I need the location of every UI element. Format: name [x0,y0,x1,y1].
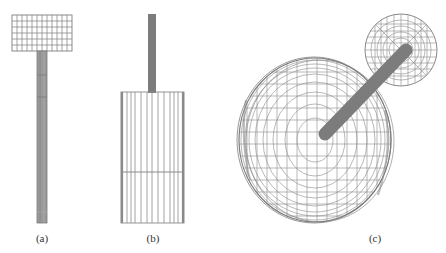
mesh-oblique-view [210,0,446,253]
panel-a: (a) [0,0,100,253]
rod [37,51,47,223]
panel-c: (c) [210,0,446,253]
disc-mesh [12,15,72,51]
panel-b-label: (b) [133,232,173,244]
rod [148,14,156,93]
panel-a-label: (a) [22,232,62,244]
panel-b: (b) [100,0,210,253]
panel-c-label: (c) [355,232,395,244]
mesh-disc-on-rod-side-view [0,0,100,253]
mesh-rod-on-cylinder-side-view [100,0,210,253]
cylinder-mesh [121,92,184,223]
